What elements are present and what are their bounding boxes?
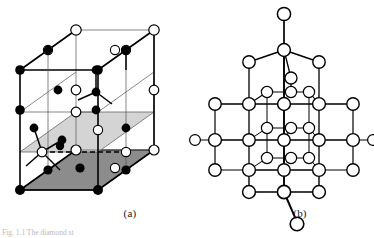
atom-node: [209, 134, 222, 147]
atom-node: [313, 186, 326, 199]
open-atom: [71, 25, 81, 35]
open-atom: [110, 163, 119, 172]
open-atom: [37, 147, 47, 157]
atom-node: [209, 98, 221, 110]
atom-node: [347, 134, 360, 147]
atom-node: [285, 152, 296, 163]
atom-node: [303, 86, 314, 97]
filled-atom: [43, 165, 52, 174]
filled-atom: [121, 165, 130, 174]
node-group: [190, 7, 374, 230]
atom-node: [303, 122, 314, 133]
atom-node: [278, 44, 291, 57]
atom-node: [278, 98, 291, 111]
atom-node: [313, 56, 325, 68]
filled-atom: [75, 163, 84, 172]
atom-node: [285, 86, 296, 97]
unit-cell-svg: [0, 0, 187, 208]
atom-node: [243, 186, 256, 199]
filled-atom: [30, 124, 39, 133]
atom-node: [278, 134, 290, 146]
open-atom: [93, 125, 102, 134]
atom-node: [277, 185, 290, 198]
atom-node: [243, 98, 256, 111]
atom-node: [285, 72, 297, 84]
atom-node: [243, 56, 255, 68]
atom-node: [261, 152, 272, 163]
filled-atom: [15, 185, 25, 195]
filled-atom: [54, 86, 63, 95]
figure-root: (a) (b) Fig. 1.1 The diamond st: [0, 0, 374, 238]
bond-network-svg: [187, 0, 374, 208]
open-atom: [149, 25, 159, 35]
filled-atom: [121, 45, 130, 54]
filled-atom: [93, 185, 103, 195]
open-atom: [71, 85, 81, 95]
filled-atom: [92, 88, 101, 97]
atom-node: [190, 135, 201, 146]
open-atom: [110, 45, 119, 54]
filled-atom: [56, 142, 64, 150]
atom-node: [313, 98, 326, 111]
filled-atom: [122, 124, 131, 133]
atom-node: [261, 86, 272, 97]
atom-node: [277, 7, 290, 20]
open-atom: [149, 85, 159, 95]
atom-node: [243, 134, 255, 146]
atom-node: [303, 152, 314, 163]
atom-node: [243, 164, 256, 177]
atom-node: [347, 98, 359, 110]
atom-node: [285, 122, 296, 133]
figure-caption: Fig. 1.1 The diamond st: [2, 228, 302, 237]
open-atom: [71, 145, 81, 155]
atom-node: [261, 122, 272, 133]
atom-node: [209, 164, 221, 176]
atom-node: [313, 164, 326, 177]
filled-atom: [44, 46, 53, 55]
open-atom: [71, 107, 81, 117]
atom-node: [347, 164, 359, 176]
panel-label-b: (b): [270, 207, 330, 219]
atom-node: [313, 134, 325, 146]
atom-node: [368, 135, 374, 146]
atom-node: [278, 164, 290, 176]
filled-atom: [92, 106, 101, 115]
filled-atom: [15, 65, 25, 75]
panel-b-bond-network: [187, 0, 374, 208]
open-atom: [121, 147, 130, 156]
filled-atom: [92, 66, 101, 75]
panel-label-a: (a): [100, 207, 160, 219]
panel-a-unit-cell: [0, 0, 187, 208]
open-atom: [149, 145, 159, 155]
filled-atom: [15, 105, 25, 115]
